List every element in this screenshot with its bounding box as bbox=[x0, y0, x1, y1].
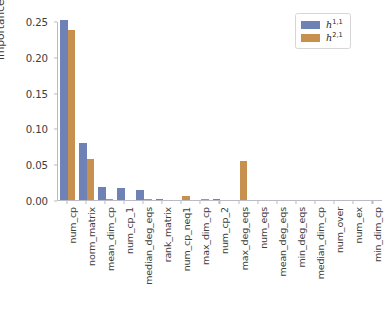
bar bbox=[136, 190, 144, 200]
x-tick-mark bbox=[142, 201, 143, 204]
y-tick-label: 0.05 bbox=[26, 160, 48, 171]
x-tick-min_dim_cp: min_dim_cp bbox=[363, 201, 382, 311]
x-tick-mark bbox=[276, 201, 277, 204]
y-tick-label: 0.20 bbox=[26, 52, 48, 63]
x-tick-mean_dim_cp: mean_dim_cp bbox=[95, 201, 114, 311]
bar bbox=[144, 199, 152, 200]
bar bbox=[98, 187, 106, 200]
x-tick-num_cp: num_cp bbox=[57, 201, 76, 311]
x-tick-mark bbox=[181, 201, 182, 204]
y-tick-label: 0.25 bbox=[26, 17, 48, 28]
x-tick-mark bbox=[200, 201, 201, 204]
legend-swatch-icon bbox=[301, 34, 320, 42]
x-tick-min_deg_eqs: min_deg_eqs bbox=[286, 201, 305, 311]
bar bbox=[213, 199, 221, 200]
x-tick-mark bbox=[66, 201, 67, 204]
bar bbox=[87, 159, 95, 200]
x-tick-mark bbox=[315, 201, 316, 204]
legend-item: h2,1 bbox=[301, 31, 343, 44]
x-tick-mark bbox=[372, 201, 373, 204]
x-tick-mean_deg_eqs: mean_deg_eqs bbox=[267, 201, 286, 311]
x-tick-mark bbox=[295, 201, 296, 204]
x-tick-mark bbox=[104, 201, 105, 204]
x-tick-num_cp_1: num_cp_1 bbox=[114, 201, 133, 311]
legend-label: h1,1 bbox=[326, 18, 343, 30]
x-tick-mark bbox=[85, 201, 86, 204]
x-tick-mark bbox=[238, 201, 239, 204]
x-tick-median_deg_eqs: median_deg_eqs bbox=[133, 201, 152, 311]
bar bbox=[106, 199, 114, 200]
bar bbox=[60, 20, 68, 200]
x-tick-mark bbox=[162, 201, 163, 204]
legend-item: h1,1 bbox=[301, 18, 343, 31]
x-tick-num_cp_2: num_cp_2 bbox=[210, 201, 229, 311]
x-tick-mark bbox=[353, 201, 354, 204]
x-tick-num_eqs: num_eqs bbox=[248, 201, 267, 311]
x-tick-median_dim_cp: median_dim_cp bbox=[306, 201, 325, 311]
bar bbox=[201, 199, 209, 200]
x-tick-max_dim_cp: max_dim_cp bbox=[191, 201, 210, 311]
bar bbox=[182, 196, 190, 200]
bar bbox=[68, 30, 76, 200]
bar bbox=[79, 143, 87, 200]
x-axis-ticks: num_cpnorm_matrixmean_dim_cpnum_cp_1medi… bbox=[57, 201, 382, 311]
x-tick-norm_matrix: norm_matrix bbox=[76, 201, 95, 311]
x-tick-mark bbox=[123, 201, 124, 204]
y-tick-label: 0.10 bbox=[26, 124, 48, 135]
x-tick-num_ex: num_ex bbox=[344, 201, 363, 311]
x-tick-num_over: num_over bbox=[325, 201, 344, 311]
y-tick-label: 0.00 bbox=[26, 196, 48, 207]
legend-swatch-icon bbox=[301, 21, 320, 29]
bar-chart-figure: importance (%) 0.000.050.100.150.200.25 … bbox=[0, 0, 389, 312]
legend: h1,1 h2,1 bbox=[295, 13, 351, 49]
legend-label: h2,1 bbox=[326, 31, 343, 43]
y-tick-label: 0.15 bbox=[26, 88, 48, 99]
x-tick-rank_matrix: rank_matrix bbox=[153, 201, 172, 311]
x-tick-mark bbox=[219, 201, 220, 204]
bar bbox=[117, 188, 125, 200]
x-tick-mark bbox=[257, 201, 258, 204]
bar bbox=[156, 199, 164, 200]
x-tick-max_deg_eqs: max_deg_eqs bbox=[229, 201, 248, 311]
x-tick-label: min_dim_cp bbox=[372, 207, 383, 262]
x-tick-num_cp_neq1: num_cp_neq1 bbox=[172, 201, 191, 311]
x-tick-mark bbox=[334, 201, 335, 204]
bar bbox=[240, 161, 248, 200]
y-axis-ticks: 0.000.050.100.150.200.25 bbox=[0, 22, 57, 201]
